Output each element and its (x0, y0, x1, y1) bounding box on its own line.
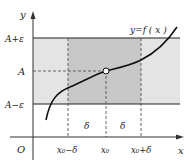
y-axis-arrow-icon (31, 11, 36, 19)
y-axis-label: y (19, 9, 26, 20)
x0-label: x₀ (101, 145, 110, 155)
x0-minus-delta-label: x₀−δ (57, 145, 77, 155)
x-axis-arrow-icon (176, 135, 184, 140)
removed-point-marker (103, 68, 109, 74)
x-axis-label: x (178, 145, 184, 156)
a-label: A (17, 66, 25, 77)
x0-plus-delta-label: x₀+δ (131, 145, 151, 155)
delta-right-label: δ (120, 121, 125, 131)
origin-label: O (17, 144, 25, 155)
function-label: y=f ( x ) (129, 25, 167, 35)
delta-left-label: δ (84, 121, 89, 131)
epsilon-delta-diagram: y x O A+ε A A−ε y=f ( x ) δ δ x₀−δ x₀ x₀… (0, 0, 189, 166)
a-plus-eps-label: A+ε (4, 34, 24, 44)
a-minus-eps-label: A−ε (4, 100, 24, 110)
